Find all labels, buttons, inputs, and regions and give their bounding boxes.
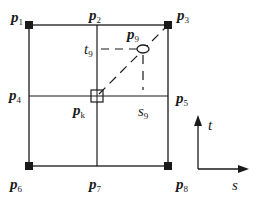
label-p5: p5: [176, 91, 188, 108]
p9-ellipse-marker: [137, 45, 149, 53]
s-axis-arrowhead-icon: [238, 165, 249, 173]
label-s9: s9: [138, 104, 148, 121]
label-p9: p9: [127, 27, 139, 44]
corner-marker-p8: [164, 162, 172, 170]
label-p2: p2: [89, 8, 101, 25]
t-axis-arrowhead-icon: [194, 115, 202, 126]
corner-marker-p1: [25, 21, 33, 29]
label-p7: p7: [89, 177, 101, 194]
s-axis-label: s: [232, 178, 238, 193]
label-t9: t9: [84, 42, 93, 59]
label-pk: pk: [73, 103, 85, 120]
t-axis-label: t: [208, 118, 212, 133]
label-p6: p6: [10, 177, 22, 194]
corner-marker-p6: [25, 162, 33, 170]
label-p3: p3: [177, 8, 189, 25]
label-p8: p8: [176, 177, 188, 194]
label-p4: p4: [9, 88, 21, 105]
label-p1: p1: [11, 10, 23, 27]
